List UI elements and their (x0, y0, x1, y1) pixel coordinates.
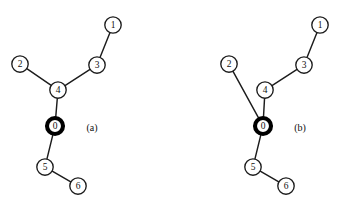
graph-node-1[interactable]: 1 (312, 17, 328, 33)
graph-edge-0-5 (47, 133, 53, 159)
graph-node-0[interactable]: 0 (47, 118, 63, 134)
node-label-5: 5 (43, 162, 48, 172)
graph-panel-a: 1234056(a) (12, 17, 121, 194)
graph-node-6[interactable]: 6 (70, 178, 86, 194)
node-label-3: 3 (95, 60, 100, 70)
graph-edge-5-6 (260, 171, 279, 182)
figure-container: 1234056(a)1234056(b) (0, 0, 344, 215)
node-group: 1234056 (12, 17, 121, 194)
graph-node-5[interactable]: 5 (37, 159, 53, 175)
graph-node-3[interactable]: 3 (89, 57, 105, 73)
graph-figure-canvas: 1234056(a)1234056(b) (0, 0, 344, 215)
graph-edge-1-3 (100, 32, 110, 58)
graph-node-5[interactable]: 5 (245, 159, 261, 175)
node-label-4: 4 (263, 85, 268, 95)
node-label-6: 6 (284, 181, 289, 191)
node-label-3: 3 (302, 60, 307, 70)
node-label-6: 6 (76, 181, 81, 191)
graph-edge-2-0 (233, 71, 260, 120)
node-label-2: 2 (18, 59, 23, 69)
graph-edge-4-0 (56, 98, 58, 119)
node-label-5: 5 (251, 162, 256, 172)
node-label-1: 1 (318, 20, 323, 30)
graph-node-4[interactable]: 4 (50, 82, 66, 98)
graph-edge-2-4 (26, 68, 51, 85)
panel-caption: (a) (86, 122, 97, 134)
graph-node-4[interactable]: 4 (257, 82, 273, 98)
graph-edge-3-4 (272, 69, 298, 86)
panel-caption: (b) (294, 122, 306, 134)
node-label-1: 1 (111, 20, 116, 30)
node-label-0: 0 (261, 121, 266, 131)
graph-edge-5-6 (52, 171, 71, 182)
graph-edge-3-4 (65, 69, 91, 86)
graph-edge-4-0 (263, 98, 264, 119)
edge-group (26, 32, 110, 182)
graph-edge-1-3 (307, 32, 317, 58)
graph-node-6[interactable]: 6 (278, 178, 294, 194)
node-label-4: 4 (56, 85, 61, 95)
graph-node-1[interactable]: 1 (105, 17, 121, 33)
node-label-2: 2 (227, 59, 232, 69)
graph-node-3[interactable]: 3 (296, 57, 312, 73)
graph-node-2[interactable]: 2 (12, 56, 28, 72)
graph-panel-b: 1234056(b) (221, 17, 328, 194)
node-label-0: 0 (53, 121, 58, 131)
graph-edge-0-5 (255, 133, 261, 159)
graph-node-2[interactable]: 2 (221, 56, 237, 72)
edge-group (233, 32, 317, 182)
panels-group: 1234056(a)1234056(b) (12, 17, 328, 194)
graph-node-0[interactable]: 0 (255, 118, 271, 134)
